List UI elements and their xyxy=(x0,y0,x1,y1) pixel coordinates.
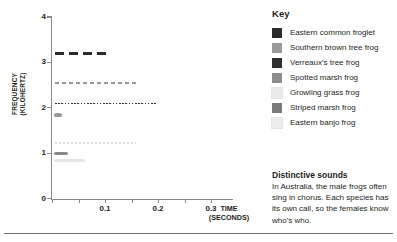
legend-swatch-icon xyxy=(272,58,282,68)
trace-3 xyxy=(54,113,61,116)
distinctive-sounds-note: Distinctive sounds In Australia, the mal… xyxy=(272,170,394,226)
trace-6 xyxy=(54,159,85,162)
legend-item-label: Striped marsh frog xyxy=(290,103,356,113)
legend-item: Eastern banjo frog xyxy=(272,115,396,130)
trace-1 xyxy=(55,82,138,84)
legend-item: Eastern common froglet xyxy=(272,25,396,40)
bottom-divider xyxy=(4,233,393,234)
y-tick-label-4: 4 xyxy=(34,12,46,21)
legend-swatch-icon xyxy=(272,73,282,83)
legend-item-label: Verreaux's tree frog xyxy=(290,58,360,68)
trace-0 xyxy=(55,52,109,55)
x-tick-0.1 xyxy=(105,199,106,203)
y-tick-2 xyxy=(47,107,52,108)
legend-item: Verreaux's tree frog xyxy=(272,55,396,70)
x-tick-0.05 xyxy=(79,199,80,203)
x-tick-0.2 xyxy=(158,199,159,203)
trace-5 xyxy=(54,152,68,155)
y-tick-label-3: 3 xyxy=(34,57,46,66)
legend-swatch-icon xyxy=(272,28,282,38)
legend-item: Spotted marsh frog xyxy=(272,70,396,85)
y-axis-line xyxy=(51,17,52,200)
legend-item-label: Spotted marsh frog xyxy=(290,73,358,83)
note-body: In Australia, the male frogs often sing … xyxy=(272,181,394,226)
legend-item: Growling grass frog xyxy=(272,85,396,100)
legend-swatch-icon xyxy=(272,118,282,128)
x-tick-label-0.1: 0.1 xyxy=(99,204,110,213)
x-tick-0.3 xyxy=(211,199,212,203)
y-tick-3 xyxy=(47,62,52,63)
legend-swatch-icon xyxy=(272,103,282,113)
x-axis-title: TIME (SECONDS) xyxy=(196,204,262,222)
y-tick-label-2: 2 xyxy=(34,103,46,112)
chart-legend: Key Eastern common frogletSouthern brown… xyxy=(272,8,396,130)
x-tick-0.25 xyxy=(185,199,186,203)
legend-item-label: Southern brown tree frog xyxy=(290,43,379,53)
legend-swatch-icon xyxy=(272,43,282,53)
legend-title: Key xyxy=(272,8,396,19)
y-tick-label-1: 1 xyxy=(34,148,46,157)
x-tick-0 xyxy=(52,199,53,203)
legend-item: Southern brown tree frog xyxy=(272,40,396,55)
legend-item: Striped marsh frog xyxy=(272,100,396,115)
legend-items: Eastern common frogletSouthern brown tre… xyxy=(272,25,396,130)
spectrogram-chart: 01234 0.10.20.3 FREQUENCY (KILOHERTZ) TI… xyxy=(0,0,266,242)
y-tick-label-0: 0 xyxy=(34,194,46,203)
y-axis-title-line1: FREQUENCY xyxy=(11,73,18,115)
x-tick-label-0.2: 0.2 xyxy=(152,204,163,213)
x-tick-0.15 xyxy=(132,199,133,203)
legend-item-label: Eastern common froglet xyxy=(290,28,375,38)
y-tick-4 xyxy=(47,16,52,17)
trace-2 xyxy=(55,103,156,104)
x-axis-title-line1: TIME xyxy=(220,204,237,213)
y-axis-title-line2: (KILOHERTZ) xyxy=(19,72,26,115)
x-axis-title-line2: (SECONDS) xyxy=(209,213,249,222)
y-axis-title: FREQUENCY (KILOHERTZ) xyxy=(11,59,27,129)
note-title: Distinctive sounds xyxy=(272,170,394,180)
legend-item-label: Eastern banjo frog xyxy=(290,118,355,128)
y-tick-1 xyxy=(47,153,52,154)
legend-swatch-icon xyxy=(272,88,282,98)
trace-4 xyxy=(55,142,136,144)
legend-item-label: Growling grass frog xyxy=(290,88,359,98)
